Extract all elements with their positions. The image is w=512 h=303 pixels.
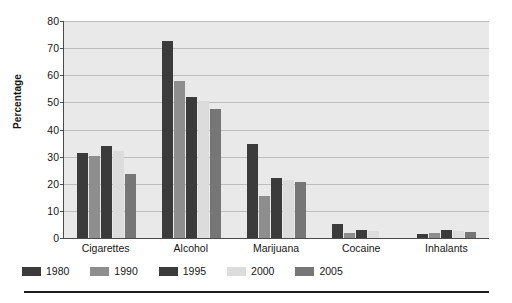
y-tick-label: 10 xyxy=(47,205,59,217)
legend-item[interactable]: 1995 xyxy=(159,265,206,277)
bar xyxy=(101,146,112,238)
bar xyxy=(271,178,282,238)
y-tick-label: 20 xyxy=(47,178,59,190)
y-tick-label: 30 xyxy=(47,151,59,163)
bar xyxy=(417,234,428,238)
x-tick-label: Cigarettes xyxy=(63,242,148,254)
bar xyxy=(465,232,476,238)
x-tick-label: Cocaine xyxy=(319,242,404,254)
bar-group xyxy=(319,21,404,238)
y-axis-title: Percentage xyxy=(12,52,23,152)
bar xyxy=(356,230,367,238)
x-axis-labels: CigarettesAlcoholMarijuanaCocaineInhalan… xyxy=(63,242,489,254)
bar xyxy=(332,224,343,238)
bar xyxy=(429,233,440,238)
x-tick-label: Alcohol xyxy=(148,242,233,254)
y-tick-label: 40 xyxy=(47,124,59,136)
bar xyxy=(77,153,88,238)
bar-chart-figure: Percentage 01020304050607080 CigarettesA… xyxy=(0,0,512,303)
legend-swatch xyxy=(227,267,246,276)
y-tick-label: 80 xyxy=(47,15,59,27)
legend-swatch xyxy=(90,267,109,276)
legend-swatch xyxy=(22,267,41,276)
legend-item[interactable]: 1990 xyxy=(90,265,137,277)
bar xyxy=(259,196,270,238)
bar xyxy=(125,174,136,238)
legend-item[interactable]: 1980 xyxy=(22,265,69,277)
bar-group xyxy=(404,21,489,238)
x-tick-label: Inhalants xyxy=(404,242,489,254)
bar xyxy=(344,233,355,238)
plot-area: 01020304050607080 xyxy=(63,21,489,239)
y-tick-label: 70 xyxy=(47,42,59,54)
bottom-rule xyxy=(24,291,489,293)
bar xyxy=(295,182,306,238)
bar xyxy=(441,230,452,238)
legend: 19801990199520002005 xyxy=(22,265,364,277)
legend-label: 2000 xyxy=(251,265,274,277)
legend-item[interactable]: 2005 xyxy=(295,265,342,277)
bar-group xyxy=(234,21,319,238)
x-tick-label: Marijuana xyxy=(233,242,318,254)
bar xyxy=(113,151,124,238)
legend-label: 1990 xyxy=(114,265,137,277)
legend-label: 2005 xyxy=(319,265,342,277)
legend-swatch xyxy=(295,267,314,276)
y-tick-label: 60 xyxy=(47,69,59,81)
bar xyxy=(210,109,221,238)
bar xyxy=(368,231,379,238)
bar xyxy=(198,101,209,238)
y-tick-label: 50 xyxy=(47,96,59,108)
bar-group xyxy=(149,21,234,238)
bar xyxy=(186,97,197,238)
bar xyxy=(453,231,464,238)
legend-label: 1995 xyxy=(183,265,206,277)
bar-group xyxy=(64,21,149,238)
legend-label: 1980 xyxy=(46,265,69,277)
bar xyxy=(247,144,258,238)
bar xyxy=(283,180,294,238)
bar xyxy=(162,41,173,238)
legend-item[interactable]: 2000 xyxy=(227,265,274,277)
y-tick-label: 0 xyxy=(53,232,59,244)
bar xyxy=(89,156,100,238)
bar-groups xyxy=(64,21,489,238)
y-tick-mark xyxy=(60,238,64,239)
bar xyxy=(174,81,185,238)
legend-swatch xyxy=(159,267,178,276)
